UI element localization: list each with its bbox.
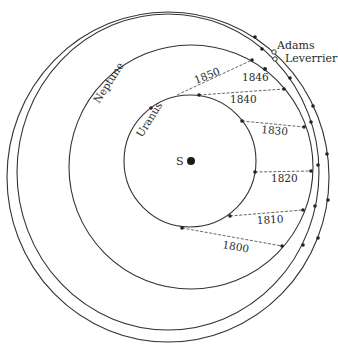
sun-label: S xyxy=(176,155,184,168)
leverrier-marker xyxy=(273,57,277,61)
adams-positions xyxy=(253,35,330,240)
year-label-1840: 1840 xyxy=(230,93,257,105)
orbit-diagram: S xyxy=(0,0,338,350)
sun-dot xyxy=(187,157,195,165)
year-label-1850: 1850 xyxy=(192,65,221,86)
leverrier-label: Leverrier xyxy=(285,52,338,65)
year-label-1800: 1800 xyxy=(222,238,250,254)
uranus-positions xyxy=(149,93,257,230)
neptune-label: Neptune xyxy=(91,60,126,105)
adams-marker xyxy=(272,50,276,54)
adams-label: Adams xyxy=(276,39,315,52)
year-label-1830: 1830 xyxy=(261,123,289,137)
year-label-1820: 1820 xyxy=(271,172,298,184)
year-label-1846: 1846 xyxy=(242,71,269,83)
year-label-1810: 1810 xyxy=(256,213,283,226)
